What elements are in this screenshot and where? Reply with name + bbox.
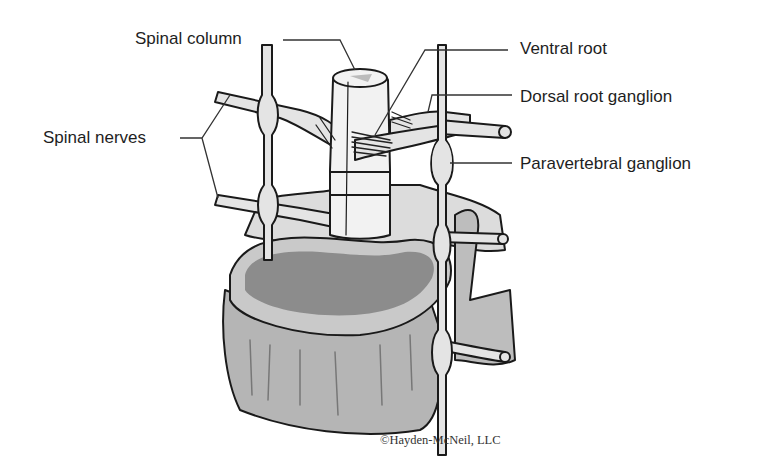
spinal-nerve-upper-left <box>215 92 345 150</box>
leader-spinal-nerves <box>180 95 230 198</box>
copyright-notice: ©Hayden-McNeil, LLC <box>380 433 501 448</box>
label-ventral-root: Ventral root <box>520 40 607 57</box>
leader-spinal-column <box>283 40 355 70</box>
label-spinal-column: Spinal column <box>135 30 242 47</box>
spinal-anatomy-illustration <box>0 0 767 475</box>
label-dorsal-root-ganglion: Dorsal root ganglion <box>520 88 672 105</box>
spinal-nerve-upper-right <box>440 120 505 138</box>
diagram-canvas: Spinal column Ventral root Dorsal root g… <box>0 0 767 475</box>
paravertebral-ganglion <box>432 140 452 184</box>
label-paravertebral-ganglion: Paravertebral ganglion <box>520 155 691 172</box>
label-spinal-nerves: Spinal nerves <box>43 129 146 146</box>
